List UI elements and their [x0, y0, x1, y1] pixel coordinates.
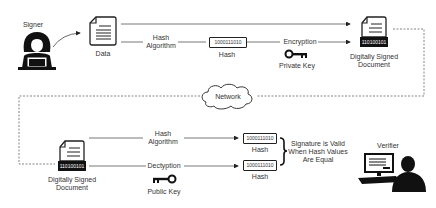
hash-top-label: Hash: [207, 51, 247, 59]
validity-note-line3: Are Equal: [283, 156, 353, 164]
signed-document-top-binary: 110100101: [360, 38, 388, 46]
signed-document-bottom-line2: Document: [43, 184, 101, 192]
public-key-icon: [152, 174, 178, 184]
signer-icon: [18, 30, 56, 70]
verifier-label: Verifier: [370, 142, 406, 150]
hash-algorithm-bottom-line2: Algorithm: [143, 138, 183, 146]
network-label: Network: [206, 93, 250, 101]
signed-document-top-line2: Document: [345, 61, 403, 69]
data-label: Data: [88, 50, 118, 58]
decryption-label: Dectyption: [143, 162, 185, 170]
verifier-icon: [356, 152, 430, 192]
hash-bottom-1-label: Hash: [240, 146, 280, 154]
validity-note-line1: Signature is Valid: [283, 140, 353, 148]
data-document-icon: [88, 15, 118, 47]
hash-bottom-1-value: 1000111010: [243, 133, 277, 144]
private-key-icon: [284, 49, 308, 59]
hash-algorithm-top-line2: Algorithm: [141, 42, 181, 50]
hash-algorithm-bottom-line1: Hash: [143, 130, 183, 138]
private-key-label: Private Key: [275, 62, 319, 70]
encryption-label: Encryption: [280, 38, 320, 46]
signed-document-top-line1: Digitally Signed: [345, 53, 403, 61]
signed-document-bottom-binary: 110100101: [58, 162, 86, 170]
hash-bottom-2-value: 1000111010: [243, 160, 277, 171]
signer-label: Signer: [18, 21, 48, 29]
hash-top-value: 1000111010: [209, 37, 247, 48]
hash-bottom-2-label: Hash: [240, 173, 280, 181]
public-key-label: Public Key: [144, 188, 184, 196]
validity-note-line2: When Hash Values: [283, 148, 353, 156]
signed-document-bottom-line1: Digitally Signed: [43, 176, 101, 184]
hash-algorithm-top-line1: Hash: [141, 34, 181, 42]
